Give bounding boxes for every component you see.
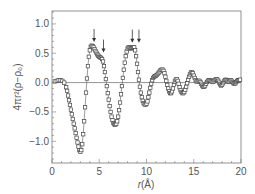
data-series <box>53 44 242 154</box>
data-point <box>76 141 79 144</box>
data-point <box>73 127 76 130</box>
data-point <box>238 78 241 81</box>
arrow-head-icon <box>92 38 96 42</box>
data-point <box>139 91 142 94</box>
data-point <box>119 93 122 96</box>
x-tick-label: 10 <box>141 166 153 177</box>
data-point <box>86 64 89 67</box>
data-point <box>147 96 150 99</box>
data-point <box>146 100 149 103</box>
data-point <box>107 98 110 101</box>
data-point <box>134 54 137 57</box>
data-point <box>124 54 127 57</box>
data-point <box>163 72 166 75</box>
data-point <box>123 61 126 64</box>
data-point <box>184 85 187 88</box>
data-point <box>138 85 141 88</box>
data-point <box>105 84 108 87</box>
data-point <box>149 86 152 89</box>
data-point <box>120 84 123 87</box>
arrow-head-icon <box>137 39 141 43</box>
data-point <box>64 86 67 89</box>
data-point <box>83 106 86 109</box>
data-point <box>165 79 168 82</box>
y-tick-label: −0.5 <box>29 106 49 117</box>
data-point <box>85 77 88 80</box>
data-point <box>63 81 66 84</box>
data-point <box>150 82 153 85</box>
data-point <box>172 83 175 86</box>
data-point <box>67 99 70 102</box>
y-axis-label: 4πr²(ρ−ρ₀) <box>12 63 23 110</box>
data-point <box>81 133 84 136</box>
x-tick-label: 15 <box>188 166 200 177</box>
data-point <box>84 91 87 94</box>
data-point <box>137 78 140 81</box>
data-point <box>70 113 73 116</box>
x-tick-label: 20 <box>235 166 247 177</box>
data-point <box>117 108 120 111</box>
arrow-head-icon <box>102 49 106 53</box>
data-point <box>82 120 85 123</box>
y-tick-label: 1.0 <box>35 18 49 29</box>
data-point <box>65 89 68 92</box>
data-point <box>109 110 112 113</box>
data-point <box>75 136 78 139</box>
data-point <box>135 62 138 65</box>
data-point <box>171 87 174 90</box>
data-point <box>77 145 80 148</box>
pdf-chart: 05101520−1.0−0.50.00.51.0 r(Å) 4πr²(ρ−ρ₀… <box>0 0 255 194</box>
data-point <box>69 108 72 111</box>
data-point <box>106 91 109 94</box>
y-tick-label: 0.0 <box>35 77 49 88</box>
data-point <box>166 83 169 86</box>
data-point <box>104 77 107 80</box>
data-point <box>71 117 74 120</box>
tick-labels: 05101520−1.0−0.50.00.51.0 <box>29 18 247 177</box>
data-point <box>87 55 90 58</box>
x-tick-label: 0 <box>49 166 55 177</box>
data-point <box>88 49 91 52</box>
data-point <box>148 91 151 94</box>
data-point <box>103 70 106 73</box>
x-tick-label: 5 <box>96 166 102 177</box>
data-point <box>108 104 111 107</box>
data-point <box>68 103 71 106</box>
y-tick-label: −1.0 <box>29 136 49 147</box>
x-axis-label-unit: (Å) <box>141 178 154 190</box>
data-point <box>121 76 124 79</box>
data-point <box>72 122 75 125</box>
data-point <box>122 68 125 71</box>
axis-ticks <box>52 12 241 163</box>
data-point <box>110 115 113 118</box>
data-point <box>118 101 121 104</box>
arrow-head-icon <box>130 39 134 43</box>
data-point <box>116 120 119 123</box>
data-point <box>74 131 77 134</box>
data-point <box>185 81 188 84</box>
data-point <box>177 82 180 85</box>
x-axis-label: r(Å) <box>138 178 155 190</box>
y-tick-label: 0.5 <box>35 48 49 59</box>
data-point <box>116 115 119 118</box>
data-point <box>66 94 69 97</box>
data-point <box>81 143 84 146</box>
data-point <box>136 70 139 73</box>
plot-area <box>52 11 241 163</box>
data-point <box>80 148 83 151</box>
data-point <box>140 96 143 99</box>
data-point <box>101 60 104 63</box>
data-point <box>133 49 136 52</box>
data-point <box>164 75 167 78</box>
plot-frame <box>52 11 241 163</box>
data-point <box>102 64 105 67</box>
